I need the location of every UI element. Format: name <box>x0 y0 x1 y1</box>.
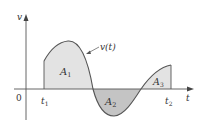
area-a1-fill <box>44 41 93 89</box>
origin-label: 0 <box>16 93 22 103</box>
t1-label: t1 <box>41 96 48 107</box>
pointer-arrow-icon <box>86 51 91 55</box>
y-axis-label: v <box>17 12 22 22</box>
area-under-curve-diagram: v t 0 v(t) t1 t2 A1 A2 A3 <box>0 0 200 126</box>
curve-label: v(t) <box>100 42 116 52</box>
t2-label: t2 <box>165 96 173 107</box>
y-axis-arrow-icon <box>24 14 29 21</box>
area-a2-fill <box>93 89 141 116</box>
x-axis-arrow-icon <box>187 87 194 92</box>
x-axis-label: t <box>186 93 190 103</box>
